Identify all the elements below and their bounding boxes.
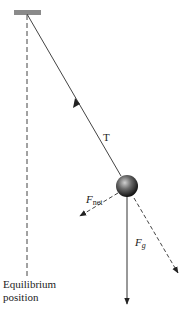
equilibrium-label-line2: position	[3, 291, 39, 303]
tension-label: T	[103, 131, 110, 143]
pendulum-bob	[116, 175, 138, 197]
net-force-label: Fnet	[85, 193, 103, 207]
gravity-label: Fg	[134, 236, 146, 250]
pendulum-diagram: T Fnet Fg Equilibrium position	[0, 0, 189, 314]
equilibrium-label-line1: Equilibrium	[3, 278, 57, 290]
pendulum-string	[27, 14, 121, 176]
